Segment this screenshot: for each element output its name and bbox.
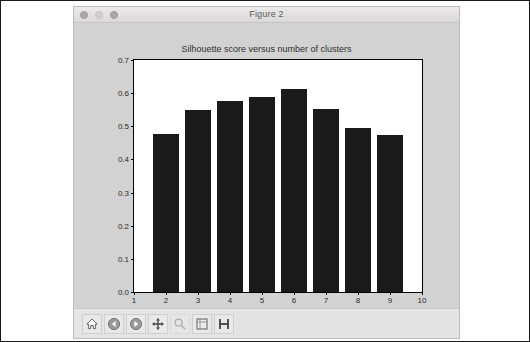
forward-arrow-icon[interactable]: [126, 314, 146, 334]
x-axis-tick-mark: [166, 292, 167, 295]
y-axis-tick-mark: [131, 226, 134, 227]
x-axis-tick-label: 7: [324, 296, 328, 305]
x-axis-tick-mark: [134, 292, 135, 295]
x-axis-tick-mark: [262, 292, 263, 295]
x-axis-tick-label: 9: [388, 296, 392, 305]
figure-window: Figure 2 Silhouette score versus number …: [73, 6, 460, 339]
figure-canvas[interactable]: Silhouette score versus number of cluste…: [74, 23, 459, 308]
x-axis-tick-label: 6: [292, 296, 296, 305]
bar: [313, 109, 339, 292]
save-disk-icon[interactable]: [214, 314, 234, 334]
x-axis-tick-mark: [358, 292, 359, 295]
y-axis-tick-mark: [131, 126, 134, 127]
x-axis-tick-mark: [422, 292, 423, 295]
back-arrow-icon[interactable]: [104, 314, 124, 334]
x-axis-tick-mark: [294, 292, 295, 295]
x-axis-tick-label: 4: [228, 296, 232, 305]
bar: [345, 128, 371, 292]
screenshot-root: Figure 2 Silhouette score versus number …: [0, 0, 530, 342]
bar: [281, 89, 307, 292]
y-axis-tick-mark: [131, 159, 134, 160]
window-title: Figure 2: [74, 9, 459, 19]
bar: [377, 135, 403, 292]
x-axis-tick-mark: [326, 292, 327, 295]
bar: [153, 134, 179, 292]
bar: [249, 97, 275, 292]
x-axis-tick-label: 8: [356, 296, 360, 305]
pan-move-icon[interactable]: [148, 314, 168, 334]
bar-series: [134, 60, 422, 292]
x-axis-tick-label: 1: [132, 296, 136, 305]
x-axis-tick-mark: [230, 292, 231, 295]
y-axis-tick-mark: [131, 93, 134, 94]
zoom-rect-icon[interactable]: [170, 314, 190, 334]
bar: [217, 101, 243, 292]
bar: [185, 110, 211, 292]
chart-title: Silhouette score versus number of cluste…: [84, 44, 449, 54]
y-axis-tick-mark: [131, 193, 134, 194]
x-axis-tick-label: 10: [418, 296, 427, 305]
plot-axes: 0.00.10.20.30.40.50.60.712345678910: [133, 59, 423, 293]
y-axis-tick-mark: [131, 60, 134, 61]
figure-area: Silhouette score versus number of cluste…: [84, 28, 449, 303]
x-axis-tick-mark: [390, 292, 391, 295]
window-titlebar[interactable]: Figure 2: [74, 7, 459, 23]
x-axis-tick-mark: [198, 292, 199, 295]
x-axis-tick-label: 2: [164, 296, 168, 305]
y-axis-tick-mark: [131, 259, 134, 260]
x-axis-tick-label: 5: [260, 296, 264, 305]
x-axis-tick-label: 3: [196, 296, 200, 305]
home-icon[interactable]: [82, 314, 102, 334]
matplotlib-toolbar: [74, 308, 459, 338]
configure-subplots-icon[interactable]: [192, 314, 212, 334]
